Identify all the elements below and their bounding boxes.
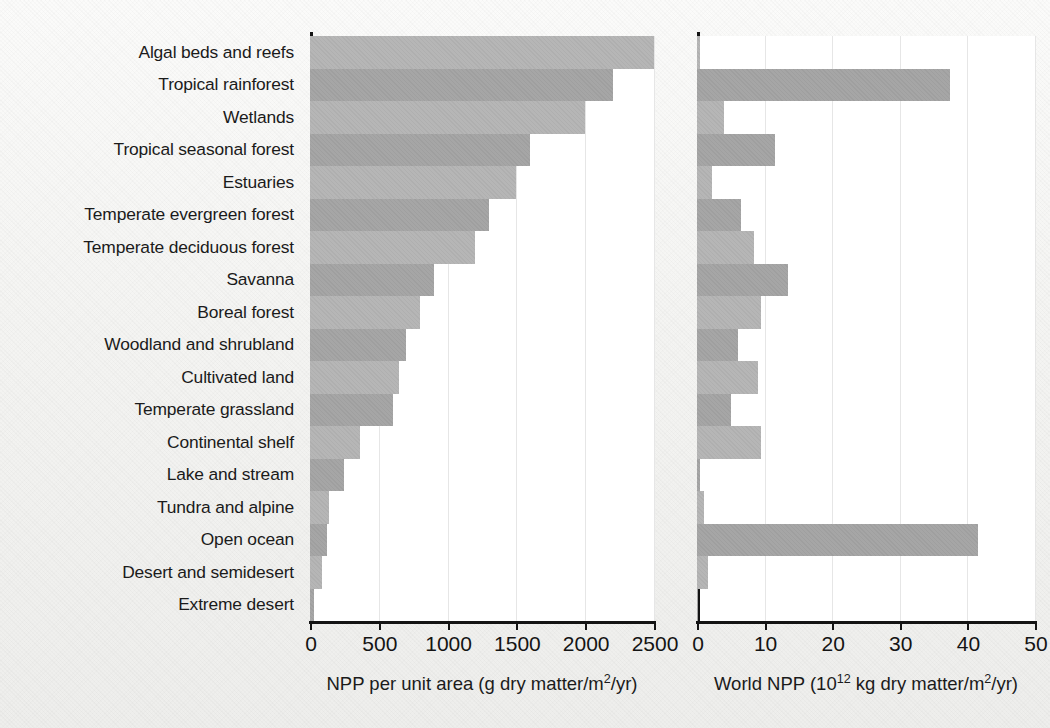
category-label: Tropical seasonal forest [0,134,302,167]
bar-row [697,329,1035,362]
axis-tick [585,621,587,630]
x-axis-world-npp: 01020304050 [697,621,1035,651]
bar-row [697,134,1035,167]
bar-series-npp-per-unit-area [310,36,654,621]
bar-row [697,231,1035,264]
bar [697,524,978,557]
axis-tick [900,621,902,630]
category-label: Temperate deciduous forest [0,231,302,264]
bar [310,491,329,524]
gridline [654,36,655,621]
bar-row [310,459,654,492]
category-label: Estuaries [0,166,302,199]
bar-row [310,296,654,329]
bar [697,36,700,69]
bar [697,69,950,102]
category-label: Savanna [0,264,302,297]
bar-row [310,329,654,362]
bar [310,556,322,589]
bar [310,166,516,199]
bar-row [697,101,1035,134]
bar-row [697,394,1035,427]
axis-tick [1035,621,1037,630]
bar-row [697,491,1035,524]
bar [310,199,489,232]
bar [697,556,708,589]
axis-tick [379,621,381,630]
bar [697,199,741,232]
gridline [1035,36,1036,621]
bar [697,459,700,492]
bar-row [697,69,1035,102]
bar [310,36,654,69]
bar [310,589,314,622]
bar-row [697,361,1035,394]
category-label: Extreme desert [0,589,302,622]
bar-row [310,134,654,167]
axis-tick-label: 2000 [563,632,610,656]
category-label: Temperate evergreen forest [0,199,302,232]
axis-tick [654,621,656,630]
bar [697,264,788,297]
category-label-column: Algal beds and reefsTropical rainforestW… [0,36,302,621]
bar-row [310,264,654,297]
bar-row [310,101,654,134]
bar [697,361,758,394]
x-axis-title-npp-per-unit-area: NPP per unit area (g dry matter/m2/yr) [300,672,664,695]
category-label: Desert and semidesert [0,556,302,589]
bar [697,101,724,134]
bar-row [697,296,1035,329]
bar [310,69,613,102]
category-label: Tropical rainforest [0,69,302,102]
category-label: Boreal forest [0,296,302,329]
axis-tick-label: 2500 [632,632,679,656]
category-label: Cultivated land [0,361,302,394]
axis-tick [310,621,312,630]
bar-row [697,459,1035,492]
chart-panel-world-npp [697,36,1035,621]
bar-row [310,199,654,232]
bar [697,231,754,264]
x-axis-npp-per-unit-area: 05001000150020002500 [310,621,654,651]
bar-row [310,524,654,557]
axis-tick-label: 1000 [425,632,472,656]
bar-row [310,166,654,199]
category-label: Tundra and alpine [0,491,302,524]
bar-row [310,589,654,622]
axis-tick-label: 500 [362,632,397,656]
category-label: Temperate grassland [0,394,302,427]
axis-tick [516,621,518,630]
bar [697,394,731,427]
category-label: Open ocean [0,524,302,557]
bar [310,101,585,134]
bar-row [697,426,1035,459]
figure-root: Algal beds and reefsTropical rainforestW… [0,0,1050,728]
bar [697,134,775,167]
category-label: Woodland and shrubland [0,329,302,362]
bar [697,296,761,329]
bar [697,166,712,199]
bar-row [310,394,654,427]
bar [310,264,434,297]
bar [697,329,738,362]
category-label: Continental shelf [0,426,302,459]
x-axis-title-world-npp: World NPP (1012 kg dry matter/m2/yr) [690,672,1042,695]
axis-tick-label: 40 [957,632,980,656]
bar [310,134,530,167]
bar [310,361,399,394]
bar [310,329,406,362]
axis-tick [448,621,450,630]
axis-tick-label: 0 [692,632,704,656]
bar-row [697,524,1035,557]
category-label: Algal beds and reefs [0,36,302,69]
axis-tick-label: 10 [754,632,777,656]
bar-series-world-npp [697,36,1035,621]
bar [697,426,761,459]
axis-tick-label: 1500 [494,632,541,656]
bar-row [697,166,1035,199]
bar [310,426,360,459]
bar [697,491,704,524]
bar [310,524,327,557]
bar-row [697,264,1035,297]
bar-row [697,199,1035,232]
